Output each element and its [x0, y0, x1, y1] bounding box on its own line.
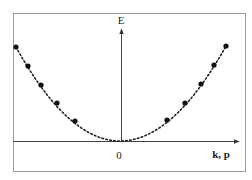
- data-point: [198, 81, 203, 86]
- data-point: [13, 44, 18, 49]
- data-point: [72, 118, 77, 123]
- data-point: [25, 63, 30, 68]
- data-point: [182, 100, 187, 105]
- data-point: [223, 43, 228, 48]
- x-axis-label: k, p: [212, 148, 230, 160]
- data-point: [54, 100, 59, 105]
- diagram-frame: [14, 14, 246, 172]
- data-point: [164, 117, 169, 122]
- diagram-canvas: E k, p 0: [0, 0, 252, 180]
- dispersion-diagram: E k, p 0: [0, 0, 252, 180]
- data-point: [38, 82, 43, 87]
- data-point: [211, 62, 216, 67]
- origin-label: 0: [116, 149, 122, 161]
- y-axis-label: E: [118, 14, 125, 26]
